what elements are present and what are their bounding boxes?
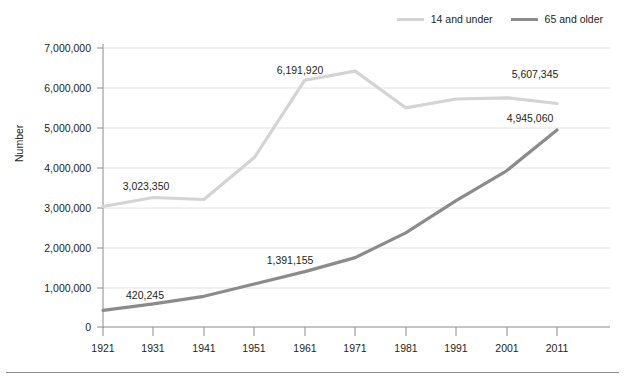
- data-label-14-and-under-2011: 5,607,345: [512, 68, 559, 80]
- y-tick-label-0: 0: [85, 321, 91, 333]
- x-tick-label-1921: 1921: [91, 342, 115, 354]
- gridlines: [103, 48, 610, 288]
- x-tick-label-1961: 1961: [293, 342, 317, 354]
- x-tick-label-1931: 1931: [141, 342, 165, 354]
- footer-divider: [6, 372, 619, 373]
- x-tick-label-1971: 1971: [343, 342, 367, 354]
- y-tick-label-1000000: 1,000,000: [44, 282, 91, 294]
- x-tick-label-2011: 2011: [546, 342, 569, 354]
- y-axis: 7,000,000 6,000,000 5,000,000 4,000,000 …: [44, 42, 103, 333]
- x-axis: 1921 1931 1941 1951 1961 1971 1981 1991 …: [91, 327, 610, 354]
- data-label-14-and-under-1961: 6,191,920: [277, 64, 324, 76]
- data-label-65-and-older-1921: 420,245: [126, 289, 164, 301]
- series-line-14-and-under: [103, 71, 557, 206]
- x-tick-label-1951: 1951: [242, 342, 266, 354]
- x-tick-label-1981: 1981: [394, 342, 418, 354]
- y-tick-label-7000000: 7,000,000: [44, 42, 91, 54]
- data-label-65-and-older-1961: 1,391,155: [267, 254, 314, 266]
- series-line-65-and-older: [103, 130, 557, 310]
- y-tick-label-4000000: 4,000,000: [44, 162, 91, 174]
- x-tick-label-1941: 1941: [192, 342, 216, 354]
- y-tick-label-2000000: 2,000,000: [44, 242, 91, 254]
- data-label-65-and-older-2011: 4,945,060: [507, 112, 554, 124]
- y-tick-label-5000000: 5,000,000: [44, 122, 91, 134]
- data-label-14-and-under-1921: 3,023,350: [123, 180, 170, 192]
- chart-page: 14 and under 65 and older Number: [0, 0, 625, 386]
- y-tick-label-6000000: 6,000,000: [44, 82, 91, 94]
- y-tick-label-3000000: 3,000,000: [44, 202, 91, 214]
- chart-plot-area: 7,000,000 6,000,000 5,000,000 4,000,000 …: [0, 0, 625, 386]
- x-tick-label-1991: 1991: [444, 342, 468, 354]
- x-tick-label-2001: 2001: [495, 342, 519, 354]
